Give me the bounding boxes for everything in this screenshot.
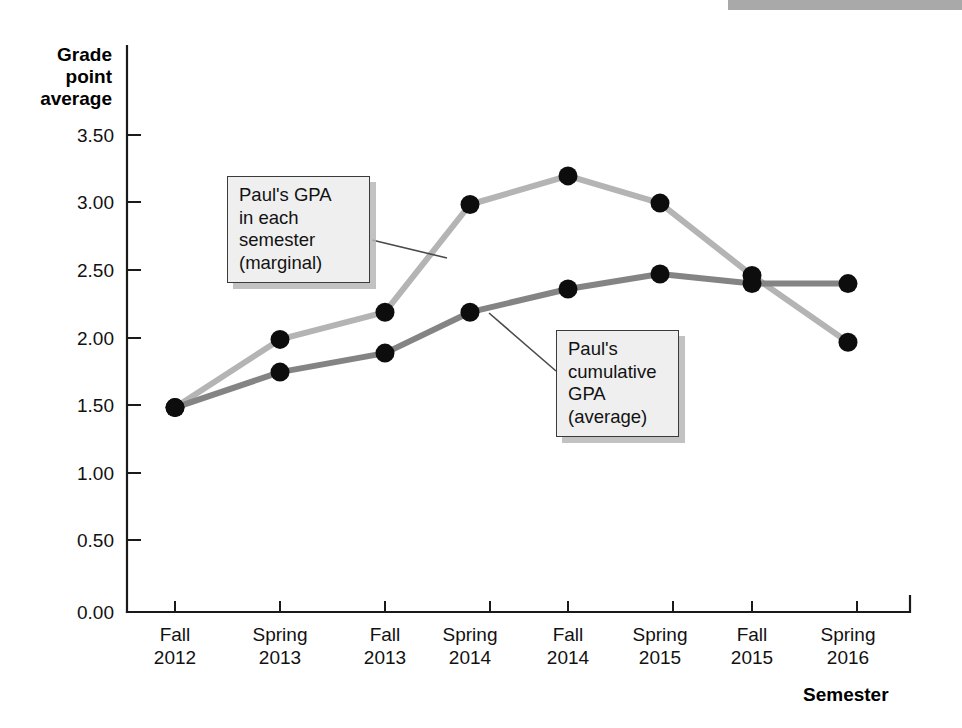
y-tick-label-7: 0.00 — [77, 602, 114, 623]
plot-area: 3.50 3.00 2.50 2.00 1.50 1.00 0.50 0.00 … — [0, 0, 962, 728]
marker-group-cumulative — [166, 265, 858, 418]
y-tick-label-1: 3.00 — [77, 192, 114, 213]
x-tick-label-5-term: Spring — [633, 624, 688, 645]
leader-line-cumulative — [489, 313, 556, 371]
annotation-cumulative: Paul's cumulative GPA (average) — [556, 330, 679, 437]
y-tick-group — [127, 135, 141, 540]
x-tick-label-6-term: Fall — [737, 624, 768, 645]
data-point-marker — [376, 344, 395, 363]
data-point-marker — [839, 274, 858, 293]
x-tick-label-1-term: Spring — [253, 624, 308, 645]
x-axis-line — [127, 596, 910, 612]
y-tick-labels: 3.50 3.00 2.50 2.00 1.50 1.00 0.50 0.00 — [77, 125, 114, 623]
y-tick-label-4: 1.50 — [77, 395, 114, 416]
data-point-marker — [271, 363, 290, 382]
annotation-marginal: Paul's GPA in each semester (marginal) — [227, 176, 370, 283]
x-tick-label-0-year: 2012 — [154, 647, 196, 668]
x-tick-label-3-year: 2014 — [449, 647, 492, 668]
x-tick-label-3-term: Spring — [443, 624, 498, 645]
x-tick-labels: Fall 2012 Spring 2013 Fall 2013 Spring 2… — [154, 624, 876, 668]
x-tick-label-2-year: 2013 — [364, 647, 406, 668]
x-tick-label-7-year: 2016 — [827, 647, 869, 668]
data-point-marker — [651, 265, 670, 284]
y-tick-label-2: 2.50 — [77, 260, 114, 281]
x-tick-label-7-term: Spring — [821, 624, 876, 645]
data-point-marker — [743, 266, 762, 285]
x-tick-group — [175, 601, 857, 612]
x-tick-label-2-term: Fall — [370, 624, 401, 645]
data-point-marker — [461, 303, 480, 322]
x-axis-title: Semester — [803, 684, 889, 705]
data-point-marker — [376, 303, 395, 322]
x-tick-label-1-year: 2013 — [259, 647, 301, 668]
y-tick-label-0: 3.50 — [77, 125, 114, 146]
data-point-marker — [559, 280, 578, 299]
x-tick-label-4-term: Fall — [553, 624, 584, 645]
gpa-line-chart: Grade point average 3.50 3.00 2.50 2.00 … — [0, 0, 962, 728]
x-tick-label-0-term: Fall — [160, 624, 191, 645]
y-tick-label-3: 2.00 — [77, 328, 114, 349]
y-tick-label-6: 0.50 — [77, 530, 114, 551]
y-tick-label-5: 1.00 — [77, 463, 114, 484]
data-point-marker — [559, 166, 578, 185]
data-point-marker — [839, 333, 858, 352]
x-tick-label-6-year: 2015 — [731, 647, 773, 668]
x-tick-label-4-year: 2014 — [547, 647, 590, 668]
data-point-marker — [166, 398, 185, 417]
data-point-marker — [271, 330, 290, 349]
data-point-marker — [461, 195, 480, 214]
data-point-marker — [651, 194, 670, 213]
x-tick-label-5-year: 2015 — [639, 647, 681, 668]
